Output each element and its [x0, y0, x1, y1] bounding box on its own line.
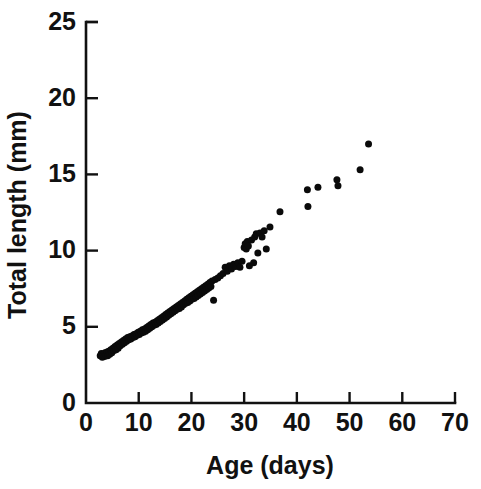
data-point: [276, 208, 283, 215]
data-points-group: [97, 140, 372, 360]
x-axis-label: Age (days): [206, 451, 334, 479]
data-point: [304, 186, 311, 193]
axes-group: [86, 22, 455, 403]
x-tick-label-70: 70: [441, 408, 469, 436]
data-point: [266, 223, 273, 230]
data-point: [259, 233, 266, 240]
x-tick-label-0: 0: [79, 408, 93, 436]
data-point: [250, 259, 257, 266]
y-axis-label: Total length (mm): [3, 111, 31, 319]
axis-spines: [86, 22, 455, 403]
tick-labels-group: 0510152025010203040506070: [48, 7, 469, 437]
data-point: [236, 264, 243, 271]
x-tick-label-10: 10: [125, 408, 153, 436]
data-point: [239, 258, 246, 265]
data-point: [334, 182, 341, 189]
chart-canvas: 0510152025010203040506070 Age (days) Tot…: [0, 0, 481, 489]
data-point: [333, 176, 340, 183]
data-point: [314, 184, 321, 191]
x-tick-label-40: 40: [283, 408, 311, 436]
data-point: [365, 140, 372, 147]
y-tick-label-20: 20: [48, 83, 76, 111]
y-tick-label-5: 5: [62, 311, 76, 339]
data-point: [245, 243, 252, 250]
scatter-plot-figure: 0510152025010203040506070 Age (days) Tot…: [0, 0, 481, 489]
y-tick-label-0: 0: [62, 388, 76, 416]
x-tick-label-30: 30: [230, 408, 258, 436]
data-point: [210, 297, 217, 304]
data-point: [357, 166, 364, 173]
x-tick-label-60: 60: [388, 408, 416, 436]
y-tick-label-15: 15: [48, 159, 76, 187]
y-tick-label-10: 10: [48, 235, 76, 263]
data-point: [263, 246, 270, 253]
x-tick-label-20: 20: [178, 408, 206, 436]
data-point: [304, 203, 311, 210]
data-point: [254, 249, 261, 256]
y-tick-label-25: 25: [48, 7, 76, 35]
x-tick-label-50: 50: [336, 408, 364, 436]
data-point: [261, 227, 268, 234]
tick-marks-group: [86, 22, 402, 403]
